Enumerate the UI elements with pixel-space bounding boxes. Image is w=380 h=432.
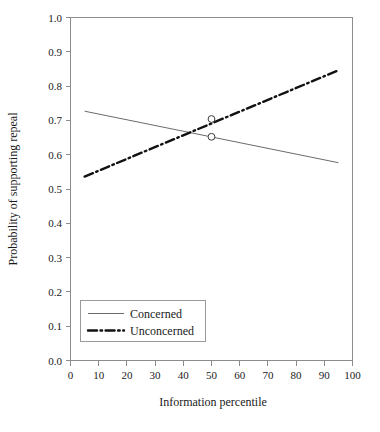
y-tick-label: 0.1 [48,320,62,332]
legend-label-unconcerned: Unconcerned [130,324,194,338]
x-tick-label: 40 [178,369,190,381]
y-axis-ticks [66,18,71,361]
y-tick-label: 0.2 [48,286,62,298]
x-tick-label: 70 [262,369,274,381]
x-tick-label: 0 [68,369,74,381]
legend-label-concerned: Concerned [130,307,182,321]
x-tick-label: 100 [344,369,361,381]
y-tick-label: 0.7 [48,114,62,126]
x-tick-label: 90 [319,369,331,381]
y-tick-label: 0.8 [48,80,62,92]
x-tick-label: 50 [206,369,218,381]
x-axis: 0 10 20 30 40 50 60 70 80 90 100 Informa… [68,361,362,410]
x-tick-label: 80 [291,369,303,381]
y-tick-label: 0.0 [48,355,62,367]
x-tick-label: 60 [234,369,246,381]
chart-canvas: 1.0 0.9 0.8 0.7 0.6 0.5 0.4 0.3 0.2 0.1 … [0,0,380,432]
chart-figure: 1.0 0.9 0.8 0.7 0.6 0.5 0.4 0.3 0.2 0.1 … [0,0,380,432]
y-tick-label: 0.4 [48,217,62,229]
x-axis-title: Information percentile [159,395,267,409]
series-concerned-marker [208,133,215,140]
y-axis-tick-labels: 1.0 0.9 0.8 0.7 0.6 0.5 0.4 0.3 0.2 0.1 … [48,12,62,367]
y-tick-label: 0.9 [48,46,62,58]
y-axis: 1.0 0.9 0.8 0.7 0.6 0.5 0.4 0.3 0.2 0.1 … [6,12,71,367]
series-unconcerned-marker [208,116,215,123]
x-tick-label: 20 [121,369,133,381]
x-axis-tick-labels: 0 10 20 30 40 50 60 70 80 90 100 [68,369,362,381]
y-tick-label: 0.6 [48,149,62,161]
x-tick-label: 30 [150,369,162,381]
y-tick-label: 0.5 [48,183,62,195]
x-tick-label: 10 [93,369,105,381]
series-unconcerned [85,70,339,176]
series-unconcerned-line [85,70,339,176]
x-axis-ticks [71,361,353,366]
y-axis-title: Probability of supporting repeal [6,112,20,266]
y-tick-label: 1.0 [48,12,62,24]
chart-legend: Concerned Unconcerned [81,301,206,342]
y-tick-label: 0.3 [48,252,62,264]
